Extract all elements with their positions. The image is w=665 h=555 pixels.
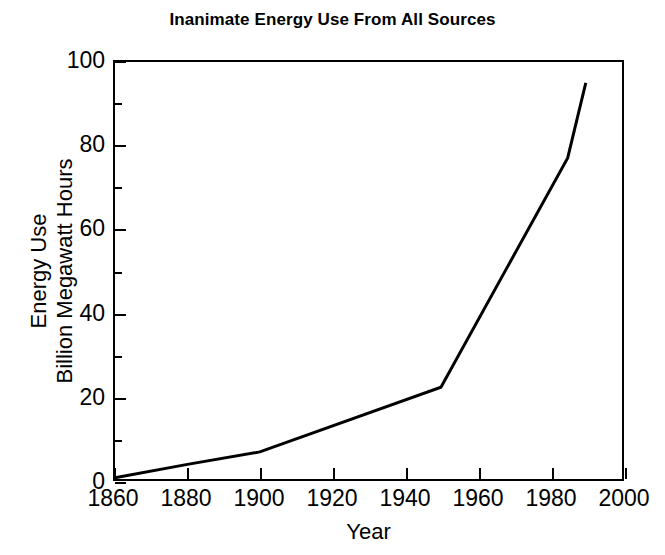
y-axis-tick-major (115, 398, 126, 400)
y-axis-tick-label: 80 (79, 133, 105, 156)
x-axis-tick-label: 1980 (525, 487, 576, 510)
y-axis-tick-minor (115, 272, 122, 274)
y-axis-tick-label: 20 (79, 385, 105, 408)
x-axis-tick (479, 468, 481, 479)
x-axis-tick (333, 468, 335, 479)
y-axis-tick-label: 40 (79, 301, 105, 324)
chart-figure: Inanimate Energy Use From All Sources En… (0, 0, 665, 555)
y-axis-tick-major (115, 229, 126, 231)
y-axis-tick-major (115, 61, 126, 63)
x-axis-tick (406, 468, 408, 479)
y-axis-tick-major (115, 482, 126, 484)
x-axis-tick (114, 468, 116, 479)
x-axis-title: Year (113, 521, 624, 543)
x-axis-tick-label: 1940 (379, 487, 430, 510)
x-axis-tick-labels: 18601880190019201940196019802000 (113, 487, 624, 517)
x-axis-tick (187, 468, 189, 479)
y-axis-tick-minor (115, 440, 122, 442)
series-polyline (115, 83, 586, 478)
x-axis-tick (625, 468, 627, 479)
y-axis-tick-major (115, 145, 126, 147)
y-axis-tick-minor (115, 356, 122, 358)
y-axis-tick-minor (115, 187, 122, 189)
x-axis-tick-label: 1900 (233, 487, 284, 510)
x-axis-tick-label: 1920 (306, 487, 357, 510)
chart-title: Inanimate Energy Use From All Sources (0, 10, 665, 30)
y-axis-tick-minor (115, 103, 122, 105)
x-axis-tick-label: 1880 (160, 487, 211, 510)
x-axis-tick-label: 1860 (87, 487, 138, 510)
plot-area (113, 60, 624, 481)
y-axis-tick-major (115, 314, 126, 316)
x-axis-tick (260, 468, 262, 479)
x-axis-tick (552, 468, 554, 479)
x-axis-tick-label: 1960 (452, 487, 503, 510)
y-axis-tick-label: 60 (79, 217, 105, 240)
data-line-series (115, 62, 622, 479)
y-axis-tick-label: 100 (67, 49, 105, 72)
x-axis-tick-label: 2000 (598, 487, 649, 510)
